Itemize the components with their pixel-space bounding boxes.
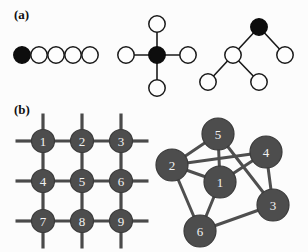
graph-node <box>250 136 282 168</box>
graph-node <box>156 149 188 181</box>
graph-node <box>65 47 81 63</box>
graph-node <box>48 47 64 63</box>
graph-node <box>71 170 94 193</box>
graph-node <box>180 47 196 63</box>
figure-canvas: (a) (b) 123456789123456 <box>0 0 308 252</box>
graph-node <box>14 47 30 63</box>
graph-node <box>31 47 47 63</box>
graph-node <box>110 210 133 233</box>
graph-node <box>202 118 234 150</box>
graph-node <box>184 215 216 247</box>
graph-node <box>32 210 55 233</box>
graph-node <box>204 166 236 198</box>
graph-node <box>32 170 55 193</box>
graph-node <box>32 130 55 153</box>
graph-node <box>251 74 267 90</box>
graph-node <box>110 170 133 193</box>
graph-node <box>82 47 98 63</box>
graph-node <box>277 47 293 63</box>
graph-drawing-surface: 123456789123456 <box>0 0 308 252</box>
graph-node <box>110 130 133 153</box>
graph-node <box>149 47 165 63</box>
graph-node <box>251 19 267 35</box>
graph-node <box>257 189 289 221</box>
graph-node <box>71 130 94 153</box>
graph-node <box>71 210 94 233</box>
graph-node <box>225 47 241 63</box>
graph-node <box>118 47 134 63</box>
graph-node <box>200 74 216 90</box>
graph-node <box>149 16 165 32</box>
graph-node <box>149 80 165 96</box>
